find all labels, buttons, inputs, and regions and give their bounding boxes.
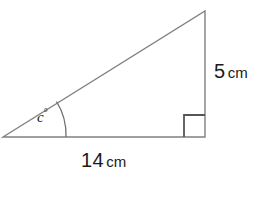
height-length-unit: cm [228,64,248,81]
base-length-unit: cm [106,153,126,170]
base-length-label: 14cm [81,150,126,170]
height-length-value: 5 [214,60,226,82]
triangle-graphic [0,0,262,210]
degree-icon: ° [44,107,48,118]
angle-label: c° [37,108,48,125]
angle-arc [57,102,67,138]
triangle-outline [3,11,205,137]
angle-symbol: c [37,109,44,125]
triangle-diagram: 14cm 5cm c° [0,0,262,210]
base-length-value: 14 [81,149,104,171]
right-angle-marker [184,115,205,137]
height-length-label: 5cm [214,61,248,81]
